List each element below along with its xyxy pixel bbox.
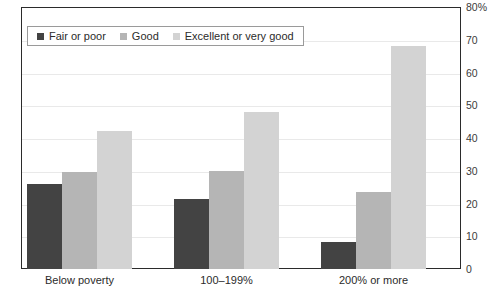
- legend-swatch-icon: [173, 33, 180, 40]
- bar: [244, 112, 279, 269]
- bar: [321, 242, 356, 269]
- y-axis-tick-label: 20: [466, 199, 478, 210]
- y-axis-tick-label: 70: [466, 35, 478, 46]
- x-axis-tick-label: 200% or more: [294, 274, 454, 286]
- legend-entry: Fair or poor: [37, 31, 106, 42]
- x-axis-tick-label: 100–199%: [147, 274, 307, 286]
- legend-label: Excellent or very good: [185, 31, 294, 42]
- bar: [391, 46, 426, 269]
- clipped-title-text: [27, 0, 287, 3]
- bars-layer: [21, 7, 461, 269]
- bar: [97, 131, 132, 269]
- legend-entry: Excellent or very good: [173, 31, 294, 42]
- bar: [356, 192, 391, 269]
- y-axis-tick-label: 10: [466, 231, 478, 242]
- y-axis-tick-label: 40: [466, 133, 478, 144]
- y-axis-tick-label: 60: [466, 68, 478, 79]
- bar: [27, 184, 62, 269]
- y-axis: 01020304050607080%: [466, 0, 499, 294]
- legend-swatch-icon: [37, 33, 44, 40]
- bar: [62, 172, 97, 269]
- y-axis-tick-label: 30: [466, 166, 478, 177]
- bar: [209, 171, 244, 269]
- y-axis-tick-label: 50: [466, 100, 478, 111]
- legend: Fair or poorGoodExcellent or very good: [27, 26, 304, 46]
- x-axis: Below poverty100–199%200% or more: [21, 274, 461, 292]
- legend-swatch-icon: [120, 33, 127, 40]
- legend-label: Fair or poor: [49, 31, 106, 42]
- x-axis-tick-label: Below poverty: [0, 274, 160, 286]
- bar-chart: 01020304050607080% Below poverty100–199%…: [0, 0, 499, 294]
- legend-label: Good: [132, 31, 159, 42]
- y-axis-tick-label: 0: [466, 264, 472, 275]
- legend-entry: Good: [120, 31, 159, 42]
- y-axis-tick-label: 80%: [466, 2, 487, 13]
- bar: [174, 199, 209, 269]
